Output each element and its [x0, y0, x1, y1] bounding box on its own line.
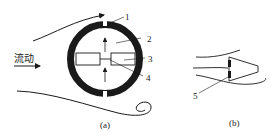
flow-label: 流动	[14, 52, 34, 64]
upper-pressure-tap	[228, 60, 231, 67]
top-pressure-slot	[103, 20, 107, 26]
callout-5-leader	[199, 77, 228, 93]
caption-a: (a)	[100, 120, 110, 130]
callout-5: 5	[193, 91, 198, 101]
callout-1: 1	[125, 12, 130, 22]
callout-1-leader	[110, 17, 124, 23]
callout-2: 2	[147, 34, 152, 44]
wedge-body	[229, 57, 258, 81]
left-chamber	[76, 53, 100, 65]
bottom-pressure-slot	[103, 91, 107, 97]
callout-3: 3	[148, 54, 153, 64]
lower-streamline-vortex	[17, 91, 151, 115]
lower-pressure-tap	[228, 71, 231, 78]
figure-b: 5 (b)	[193, 50, 266, 128]
upper-streamline-b	[196, 50, 240, 57]
caption-b: (b)	[229, 118, 240, 128]
callout-4: 4	[146, 73, 151, 83]
diagram-canvas: 流动 1 2 3 4 (a)	[0, 0, 276, 138]
figure-a: 流动 1 2 3 4 (a)	[14, 12, 153, 130]
